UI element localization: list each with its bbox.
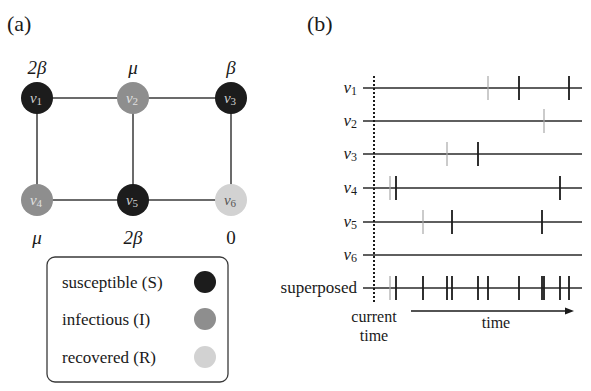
timeline-row-v1: v1 <box>343 76 582 100</box>
timeline-row-v4: v4 <box>343 176 582 200</box>
current-time-label-line1: current <box>351 308 397 325</box>
timeline-row-v2: v2 <box>343 109 582 133</box>
time-axis-label: time <box>482 314 510 331</box>
timeline-label: v6 <box>343 245 357 265</box>
timeline-label: v2 <box>343 111 357 131</box>
panel-b-label: (b) <box>307 11 333 36</box>
legend-swatch-icon <box>194 346 216 368</box>
node-v5: v52β <box>117 184 149 248</box>
node-v4: v4μ <box>21 184 53 248</box>
legend-swatch-icon <box>194 271 216 293</box>
legend: susceptible (S)infectious (I)recovered (… <box>47 257 228 382</box>
panel-a-label: (a) <box>7 11 31 36</box>
timeline-label: v4 <box>343 178 357 198</box>
node-rate-label: 0 <box>226 227 236 248</box>
legend-label: infectious (I) <box>62 310 150 329</box>
timeline-label: v5 <box>343 212 357 232</box>
timeline-label: v3 <box>343 144 357 164</box>
node-rate-label: 2β <box>124 227 144 248</box>
timeline-row-superposed: superposed <box>281 276 582 300</box>
node-v3: v3β <box>215 57 247 114</box>
node-rate-label: β <box>225 57 236 78</box>
timeline-row-v6: v6 <box>343 245 582 265</box>
node-v6: v60 <box>215 184 247 248</box>
legend-swatch-icon <box>194 308 216 330</box>
node-v1: v12β <box>21 57 53 114</box>
node-rate-label: 2β <box>28 57 48 78</box>
figure-canvas: (a) v12βv2μv3βv4μv52βv60 susceptible (S)… <box>0 0 591 391</box>
timeline-row-v5: v5 <box>343 210 582 234</box>
network-nodes: v12βv2μv3βv4μv52βv60 <box>21 57 247 248</box>
arrow-head-icon <box>565 308 574 315</box>
timeline-rows: v1v2v3v4v5v6superposed <box>281 76 582 300</box>
node-rate-label: μ <box>31 227 42 248</box>
node-v2: v2μ <box>117 57 149 114</box>
node-rate-label: μ <box>127 57 138 78</box>
legend-label: susceptible (S) <box>62 273 163 292</box>
timeline-label: superposed <box>281 278 358 297</box>
legend-label: recovered (R) <box>62 348 156 367</box>
timeline-label: v1 <box>343 78 357 98</box>
current-time-label-line2: time <box>360 327 388 344</box>
timeline-row-v3: v3 <box>343 142 582 166</box>
